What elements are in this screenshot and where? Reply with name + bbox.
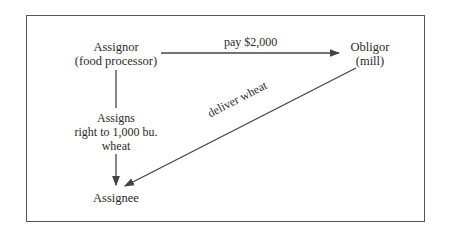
assignor-title: Assignor <box>66 40 166 54</box>
assignor-node: Assignor (food processor) <box>66 40 166 68</box>
assignor-subtitle: (food processor) <box>66 54 166 68</box>
assigns-label-line-2: right to 1,000 bu. <box>66 125 166 139</box>
assignee-title: Assignee <box>76 191 156 205</box>
assigns-label-line-1: Assigns <box>66 111 166 125</box>
assigns-label: Assigns right to 1,000 bu. wheat <box>66 111 166 153</box>
pay-label: pay $2,000 <box>224 35 277 50</box>
obligor-subtitle: (mill) <box>335 54 405 68</box>
obligor-title: Obligor <box>335 40 405 54</box>
assignee-node: Assignee <box>76 191 156 205</box>
obligor-node: Obligor (mill) <box>335 40 405 68</box>
assigns-label-line-3: wheat <box>66 139 166 153</box>
